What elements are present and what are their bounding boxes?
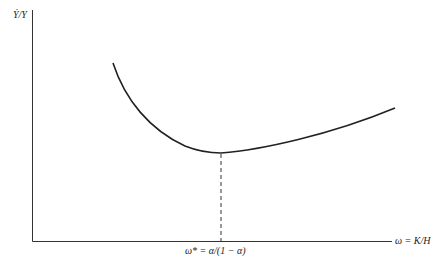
optimum-label: ω* = α/(1 − α) <box>185 245 246 256</box>
x-axis-label: ω = K/H <box>395 235 430 246</box>
y-axis-label: Ẏ/Y <box>13 9 27 20</box>
diagram-canvas <box>0 0 440 265</box>
growth-rate-curve <box>113 63 395 153</box>
